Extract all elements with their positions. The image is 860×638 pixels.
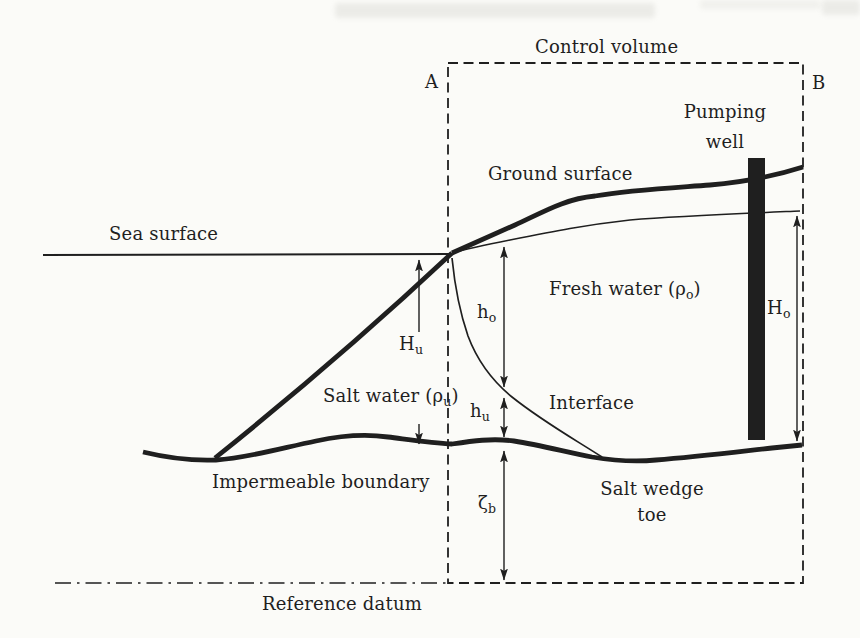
- salt-wedge-toe-label-line2: toe: [637, 504, 666, 525]
- dim-zeta-b-symbol: ζ: [478, 492, 488, 513]
- coastal-aquifer-figure: Control volume A B Pumpingwell Ground su…: [0, 0, 860, 638]
- dim-ho-label: ho: [477, 302, 496, 325]
- dim-ho-subscript: o: [489, 310, 497, 325]
- fresh-water-label-close: ): [694, 278, 701, 299]
- dim-zeta-b-subscript: b: [488, 501, 496, 516]
- dim-Hu-subscript: u: [415, 342, 423, 357]
- dim-hu-label: hu: [470, 401, 490, 424]
- section-a-label: A: [425, 72, 438, 93]
- fresh-water-label: Fresh water (ρo): [549, 279, 701, 302]
- salt-wedge-toe-label: Salt wedgetoe: [599, 476, 705, 528]
- sea-surface-label: Sea surface: [109, 224, 218, 245]
- diagram-canvas: [0, 0, 860, 638]
- section-b-label: B: [812, 73, 825, 94]
- pumping-well-label-line1: Pumping: [684, 101, 767, 122]
- impermeable-boundary-label: Impermeable boundary: [212, 472, 430, 493]
- dim-ho-symbol: h: [477, 301, 489, 322]
- dim-hu-symbol: h: [470, 400, 482, 421]
- sea-surface-line: [43, 254, 452, 255]
- pumping-well-casing: [748, 158, 765, 440]
- dim-zeta-b-label: ζb: [478, 493, 496, 516]
- salt-water-label-close: ): [451, 385, 458, 406]
- ground-surface-label: Ground surface: [488, 164, 633, 185]
- dim-Hu-label: Hu: [399, 334, 423, 357]
- salt-water-label-text: Salt water (ρ: [323, 385, 443, 406]
- pumping-well-label-line2: well: [706, 131, 744, 152]
- salt-water-label: Salt water (ρu): [323, 386, 459, 409]
- dim-hu-subscript: u: [482, 409, 490, 424]
- interface-label: Interface: [549, 393, 634, 414]
- fresh-water-label-text: Fresh water (ρ: [549, 278, 686, 299]
- dim-Ho-symbol: H: [767, 297, 783, 318]
- dim-Ho-subscript: o: [783, 306, 791, 321]
- dim-Hu-symbol: H: [399, 333, 415, 354]
- salt-wedge-toe-label-line1: Salt wedge: [600, 478, 704, 499]
- fresh-water-label-subscript: o: [686, 287, 694, 302]
- dim-Ho-label: Ho: [767, 298, 790, 321]
- pumping-well-label: Pumpingwell: [682, 97, 768, 157]
- control-volume-label: Control volume: [535, 37, 678, 58]
- reference-datum-label: Reference datum: [262, 594, 422, 615]
